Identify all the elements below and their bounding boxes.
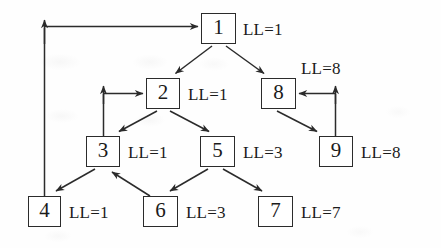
edge-2-to-5: [170, 111, 209, 132]
node-5-label: 5: [212, 140, 223, 161]
node-1-ll-label: LL=1: [243, 21, 283, 38]
node-6-ll-label: LL=3: [186, 204, 226, 221]
node-6-label: 6: [155, 200, 166, 221]
node-8-ll-label: LL=8: [301, 60, 341, 77]
node-3[interactable]: 3: [86, 136, 120, 167]
edge-5-to-6: [170, 169, 208, 191]
node-2[interactable]: 2: [146, 78, 180, 109]
figure-canvas: 1 LL=1 2 LL=1 8 LL=8 3 LL=1 5 LL=3 9 LL=…: [0, 0, 441, 248]
node-4-label: 4: [39, 200, 50, 221]
edge-2-to-3: [119, 111, 157, 132]
node-2-label: 2: [158, 82, 169, 103]
node-9-ll-label: LL=8: [361, 144, 401, 161]
edge-1-to-8: [226, 46, 264, 74]
edge-8-to-9: [277, 111, 317, 132]
node-9[interactable]: 9: [319, 136, 353, 167]
edge-3-to-4: [56, 169, 95, 191]
node-4[interactable]: 4: [28, 196, 61, 227]
node-8-label: 8: [273, 82, 284, 103]
node-6[interactable]: 6: [143, 196, 178, 227]
node-5[interactable]: 5: [200, 136, 235, 167]
edge-6-to-3: [112, 172, 150, 196]
node-3-ll-label: LL=1: [128, 144, 168, 161]
edge-1-to-2: [176, 46, 213, 74]
node-1[interactable]: 1: [201, 13, 236, 44]
node-2-ll-label: LL=1: [188, 86, 228, 103]
node-5-ll-label: LL=3: [243, 144, 283, 161]
node-8[interactable]: 8: [261, 78, 296, 109]
node-9-label: 9: [331, 140, 342, 161]
node-7-ll-label: LL=7: [301, 204, 341, 221]
node-3-label: 3: [98, 140, 109, 161]
node-1-label: 1: [213, 17, 224, 38]
node-7-label: 7: [270, 200, 281, 221]
node-7[interactable]: 7: [258, 196, 293, 227]
edge-5-to-7: [223, 169, 262, 191]
node-4-ll-label: LL=1: [69, 204, 109, 221]
